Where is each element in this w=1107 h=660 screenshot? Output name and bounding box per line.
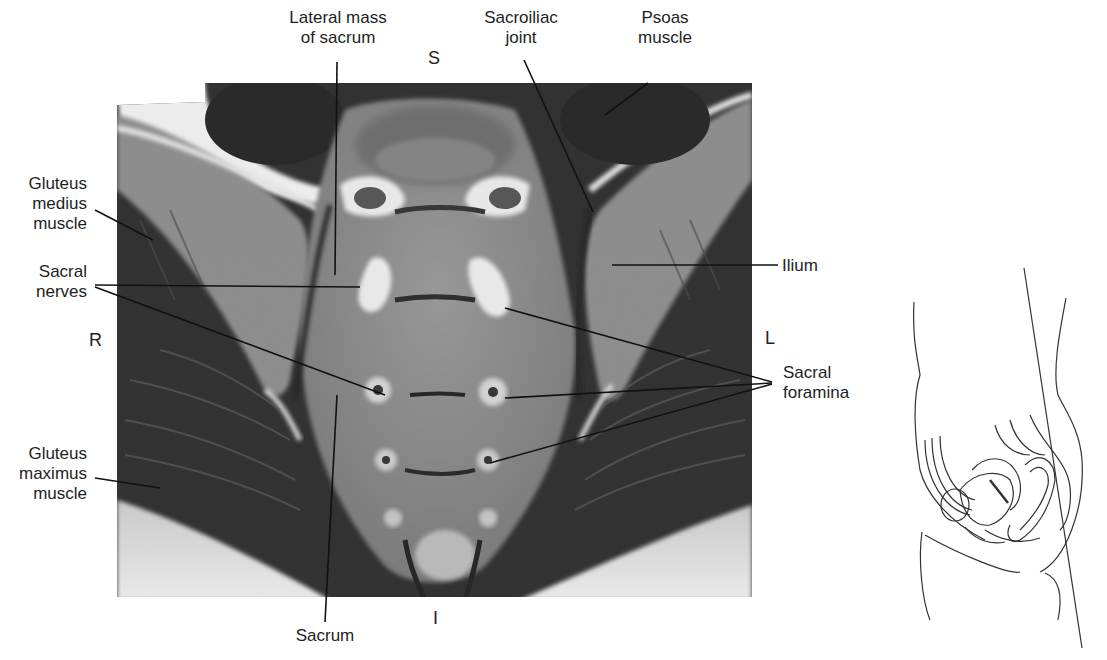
orientation-right: R bbox=[89, 330, 102, 351]
orientation-sketch bbox=[914, 268, 1083, 648]
label-sacroiliac-joint: Sacroiliac joint bbox=[466, 8, 576, 48]
orientation-left: L bbox=[765, 328, 775, 349]
label-gluteus-maximus-muscle: Gluteus maximus muscle bbox=[0, 444, 87, 504]
anatomy-figure: S I R L Lateral mass of sacrum Sacroilia… bbox=[0, 0, 1107, 660]
orientation-superior: S bbox=[428, 48, 440, 69]
label-sacral-nerves: Sacral nerves bbox=[0, 262, 87, 302]
label-psoas-muscle: Psoas muscle bbox=[620, 8, 710, 48]
orientation-inferior: I bbox=[433, 608, 438, 629]
label-sacral-foramina: Sacral foramina bbox=[783, 363, 849, 403]
label-ilium: Ilium bbox=[782, 256, 818, 276]
mri-coronal-sacrum-image bbox=[0, 0, 1107, 660]
label-gluteus-medius-muscle: Gluteus medius muscle bbox=[0, 174, 87, 234]
label-sacrum: Sacrum bbox=[275, 626, 375, 646]
label-lateral-mass-of-sacrum: Lateral mass of sacrum bbox=[268, 8, 408, 48]
